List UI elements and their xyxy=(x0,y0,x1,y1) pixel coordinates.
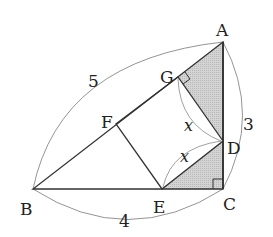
label-b: B xyxy=(20,199,33,219)
measure-de: x xyxy=(180,147,189,166)
label-f: F xyxy=(101,112,113,132)
diagram-canvas: A B C D E F G 5 3 4 x x xyxy=(0,0,273,237)
arc-ac-3 xyxy=(223,42,243,189)
geometry-diagram: A B C D E F G 5 3 4 x x xyxy=(0,0,273,237)
label-e: E xyxy=(153,197,165,217)
label-a: A xyxy=(215,20,229,40)
measure-ac: 3 xyxy=(243,114,254,134)
measure-bc: 4 xyxy=(119,211,130,231)
measure-gd: x xyxy=(184,116,193,135)
label-d: D xyxy=(227,138,241,158)
label-g: G xyxy=(160,67,174,87)
label-c: C xyxy=(223,194,236,214)
measure-ab: 5 xyxy=(88,71,99,91)
